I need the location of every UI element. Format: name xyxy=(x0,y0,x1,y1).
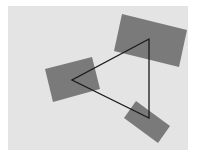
diagram-svg xyxy=(0,0,198,153)
diagram-canvas xyxy=(0,0,198,153)
